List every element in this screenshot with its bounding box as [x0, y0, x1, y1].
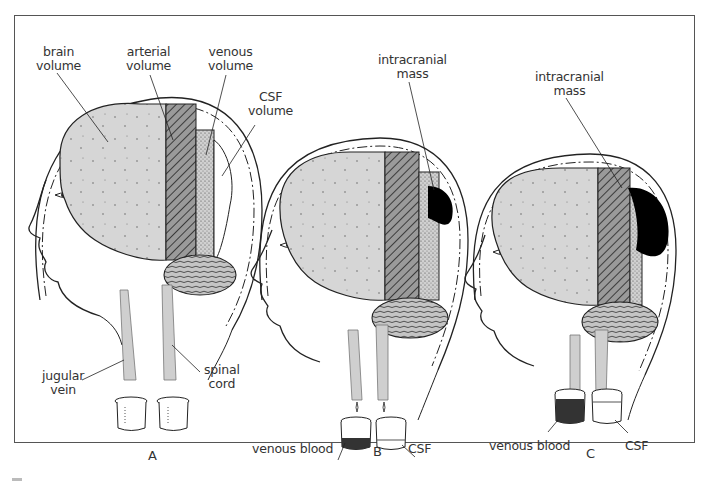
label-jugular-vein: jugular vein: [42, 369, 84, 397]
panel-label-a: A: [148, 448, 157, 463]
panel-label-c: C: [586, 446, 595, 461]
panel-a-beakers: [115, 397, 189, 431]
beaker-c-csf: [592, 389, 622, 424]
beaker-c-venous: [555, 389, 585, 424]
label-csf-b: CSF: [408, 442, 431, 456]
label-spinal-cord: spinal cord: [204, 363, 240, 391]
beaker-b-venous: [341, 417, 371, 450]
beaker-a-right: [157, 397, 189, 431]
label-brain-volume: brain volume: [36, 45, 81, 73]
label-csf-c: CSF: [625, 439, 648, 453]
panel-b-head: [251, 138, 468, 420]
label-venous-volume: venous volume: [208, 45, 253, 73]
panel-c-beakers: [555, 389, 622, 424]
page-mark: [12, 478, 22, 481]
label-venous-blood-c: venous blood: [489, 439, 570, 453]
panel-a-head: [29, 97, 262, 380]
beaker-a-left: [115, 397, 147, 431]
label-csf-volume: CSF volume: [248, 90, 293, 118]
panel-label-b: B: [373, 444, 382, 459]
label-intracranial-mass-b: intracranial mass: [378, 53, 447, 81]
panel-c-head: [465, 154, 676, 420]
label-arterial-volume: arterial volume: [126, 45, 171, 73]
label-intracranial-mass-c: intracranial mass: [535, 70, 604, 98]
label-venous-blood-b: venous blood: [252, 442, 333, 456]
